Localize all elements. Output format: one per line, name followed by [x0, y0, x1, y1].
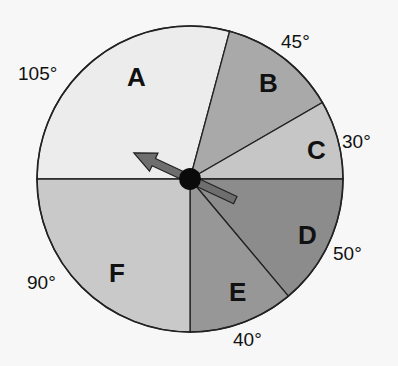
sector-degree-e: 40° [233, 329, 262, 350]
spinner-diagram: A105°B45°C30°D50°E40°F90° [0, 0, 398, 366]
sector-degree-f: 90° [27, 272, 56, 293]
sector-degree-b: 45° [281, 31, 310, 52]
sector-degree-d: 50° [333, 243, 362, 264]
sector-label-d: D [298, 220, 317, 250]
sector-label-b: B [259, 68, 278, 98]
sector-label-f: F [109, 258, 125, 288]
sector-degree-a: 105° [18, 63, 57, 84]
sector-f [37, 179, 190, 332]
sector-label-c: C [307, 135, 326, 165]
sector-label-a: A [127, 62, 146, 92]
sector-degree-c: 30° [342, 131, 371, 152]
sector-label-e: E [229, 277, 246, 307]
